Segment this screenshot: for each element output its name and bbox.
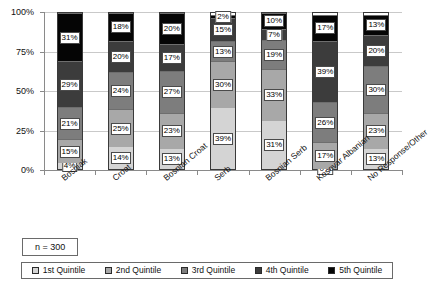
- legend-label: 4th Quintile: [266, 266, 309, 275]
- bar-segment[interactable]: 25%: [109, 109, 133, 148]
- bar-segment[interactable]: 10%: [262, 13, 286, 29]
- bar-segment-data-label: 31%: [60, 32, 80, 44]
- y-tick-label: 50%: [16, 87, 34, 96]
- bar-segment[interactable]: 39%: [313, 41, 337, 102]
- bar-segment[interactable]: 17%: [313, 15, 337, 42]
- bar-segment[interactable]: 20%: [109, 41, 133, 72]
- bar-segment-data-label: 24%: [111, 85, 131, 97]
- stacked-bar[interactable]: 14%25%24%20%18%: [108, 12, 134, 170]
- bar-segment[interactable]: 7%: [262, 29, 286, 40]
- legend-item[interactable]: 2nd Quintile: [105, 266, 161, 275]
- bar-segment-data-label: 27%: [162, 86, 182, 98]
- bar-segment[interactable]: 33%: [262, 69, 286, 120]
- legend-label: 2nd Quintile: [116, 266, 161, 275]
- bar-segment-data-label: 13%: [366, 19, 386, 31]
- bar-segment[interactable]: 20%: [364, 35, 388, 66]
- stacked-bar[interactable]: 0%17%26%39%17%: [312, 12, 338, 170]
- bar-segment-data-label: 20%: [162, 23, 182, 35]
- bar-segment-data-label: 13%: [213, 46, 233, 58]
- bar-segment[interactable]: 23%: [364, 113, 388, 149]
- bar-segment-data-label: 31%: [264, 139, 284, 151]
- bar-segment-data-label: 25%: [111, 123, 131, 135]
- y-tick-label: 75%: [16, 48, 34, 57]
- bar-segment[interactable]: 13%: [364, 15, 388, 35]
- y-tick-label: 100%: [11, 8, 34, 17]
- bar-segment-data-label: 17%: [315, 22, 335, 34]
- bar-segment[interactable]: 19%: [262, 40, 286, 70]
- y-tick-label: 25%: [16, 127, 34, 136]
- bar-segment[interactable]: 21%: [58, 107, 82, 140]
- bar-segment[interactable]: 30%: [364, 66, 388, 113]
- bar-segment-data-label: 19%: [264, 49, 284, 61]
- legend-item[interactable]: 3rd Quintile: [181, 266, 235, 275]
- legend-swatch-icon: [181, 267, 188, 274]
- bar-segment-data-label: 23%: [162, 125, 182, 137]
- stacked-bar[interactable]: 39%30%13%15%2%: [210, 12, 236, 170]
- bar-segment-data-label: 39%: [315, 66, 335, 78]
- legend-item[interactable]: 1st Quintile: [32, 266, 86, 275]
- bar-segment[interactable]: 24%: [109, 72, 133, 109]
- bar-segment-data-label: 33%: [264, 89, 284, 101]
- x-axis-category-labels: BosniakCroatBosnian CroatSerbBosnian Ser…: [0, 172, 412, 220]
- stacked-bar[interactable]: 13%23%30%20%13%: [363, 12, 389, 170]
- sample-size-annotation: n = 300: [22, 238, 78, 256]
- bar-segment-data-label: 21%: [60, 118, 80, 130]
- legend-item[interactable]: 4th Quintile: [255, 266, 309, 275]
- bar-segment[interactable]: 13%: [211, 41, 235, 61]
- bar-segment-data-label: 17%: [162, 52, 182, 64]
- bar-segment-data-label: 15%: [213, 24, 233, 36]
- y-axis-labels: 0%25%50%75%100%: [0, 12, 40, 170]
- legend-label: 5th Quintile: [339, 266, 382, 275]
- bar-segment-data-label: 26%: [315, 117, 335, 129]
- bar-segment-data-label: 39%: [213, 133, 233, 145]
- bar-segment[interactable]: 2%: [211, 15, 235, 18]
- legend-swatch-icon: [32, 267, 39, 274]
- bar-segment-data-label: 29%: [60, 79, 80, 91]
- bar-segment-data-label: 23%: [366, 125, 386, 137]
- bar-segment[interactable]: 18%: [109, 13, 133, 41]
- bar-segment-data-label: 30%: [213, 79, 233, 91]
- bar-segment[interactable]: 31%: [58, 13, 82, 61]
- bar-segment[interactable]: 26%: [313, 102, 337, 143]
- bar-segment[interactable]: 30%: [211, 61, 235, 108]
- legend-item[interactable]: 5th Quintile: [328, 266, 382, 275]
- bar-segment-data-label: 2%: [215, 11, 231, 23]
- bar-segment[interactable]: 27%: [160, 71, 184, 113]
- bar-segment-data-label: 30%: [366, 84, 386, 96]
- bar-segment-data-label: 20%: [366, 45, 386, 57]
- stacked-bar[interactable]: 31%33%19%7%10%: [261, 12, 287, 170]
- bar-segment[interactable]: 17%: [160, 44, 184, 71]
- chart-legend: 1st Quintile2nd Quintile3rd Quintile4th …: [21, 262, 393, 279]
- bar-segment-data-label: 7%: [266, 29, 282, 41]
- legend-label: 1st Quintile: [43, 266, 86, 275]
- bar-segment[interactable]: 29%: [58, 61, 82, 106]
- legend-swatch-icon: [255, 267, 262, 274]
- bar-segment[interactable]: 20%: [160, 13, 184, 44]
- legend-swatch-icon: [105, 267, 112, 274]
- bar-segment[interactable]: 39%: [211, 108, 235, 169]
- bar-segment-data-label: 10%: [264, 15, 284, 27]
- stacked-bar[interactable]: 4%15%21%29%31%: [57, 12, 83, 170]
- legend-swatch-icon: [328, 267, 335, 274]
- stacked-bar[interactable]: 13%23%27%17%20%: [159, 12, 185, 170]
- bar-segment-data-label: 15%: [60, 146, 80, 158]
- bar-segment[interactable]: 23%: [160, 113, 184, 149]
- bar-segment-data-label: 18%: [111, 21, 131, 33]
- legend-label: 3rd Quintile: [192, 266, 235, 275]
- bar-segment-data-label: 20%: [111, 51, 131, 63]
